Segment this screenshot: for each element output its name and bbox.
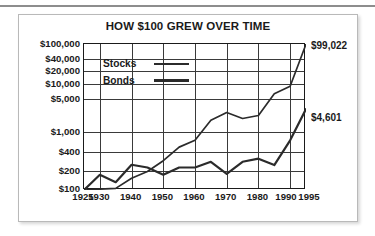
- stocks-end-value: $99,022: [311, 40, 347, 51]
- x-tick-label: 1930: [88, 191, 109, 202]
- x-tick-label: 1960: [183, 191, 204, 202]
- bonds-line-swatch: [154, 79, 189, 82]
- y-tick-label: $1,000: [51, 126, 80, 137]
- y-tick-label: $20,000: [45, 65, 80, 76]
- legend-label-bonds: Bonds: [103, 75, 150, 86]
- chart-title: HOW $100 GREW OVER TIME: [19, 20, 357, 32]
- y-tick-label: $200: [59, 164, 80, 175]
- chart-legend: Stocks Bonds: [103, 55, 213, 89]
- x-tick-label: 1990: [275, 191, 296, 202]
- y-tick-label: $5,000: [51, 92, 80, 103]
- legend-label-stocks: Stocks: [103, 58, 150, 69]
- x-axis-tick-labels: 1925 1930 1940 1950 1960 1970 1980 1990 …: [83, 191, 305, 209]
- x-tick-label: 1980: [247, 191, 268, 202]
- x-tick-label: 1950: [152, 191, 173, 202]
- stocks-line-swatch: [154, 63, 189, 65]
- legend-item-stocks: Stocks: [103, 55, 213, 72]
- bonds-series-line: [84, 109, 306, 190]
- y-tick-label: $100,000: [40, 38, 80, 49]
- x-tick-label: 1940: [120, 191, 141, 202]
- top-divider-rule: [0, 5, 375, 7]
- y-axis-tick-labels: $100,000 $40,000 $20,000 $10,000 $5,000 …: [19, 43, 80, 189]
- x-tick-label: 1970: [215, 191, 236, 202]
- y-tick-label: $40,000: [45, 52, 80, 63]
- chart-figure-box: HOW $100 GREW OVER TIME $100,000 $40,000…: [18, 14, 358, 222]
- y-tick-label: $10,000: [45, 78, 80, 89]
- x-tick-label: 1995: [298, 191, 319, 202]
- y-tick-label: $400: [59, 146, 80, 157]
- legend-item-bonds: Bonds: [103, 72, 213, 89]
- bonds-end-value: $4,601: [311, 112, 342, 123]
